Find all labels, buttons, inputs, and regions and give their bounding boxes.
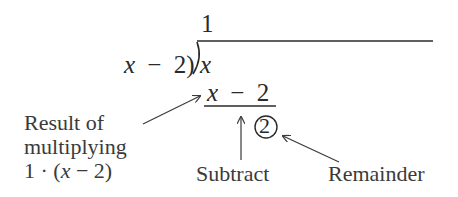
product: x − 2	[207, 80, 269, 105]
divisor: x − 2)	[124, 52, 195, 77]
result-label-suffix: − 2)	[70, 158, 112, 183]
divisor-number: 2)	[174, 51, 195, 78]
result-label-prefix: 1 · (	[24, 158, 61, 183]
result-label-variable: x	[61, 158, 71, 183]
subtract-label: Subtract	[196, 163, 269, 185]
product-variable: x	[207, 79, 218, 106]
dividend: x	[200, 52, 211, 77]
divisor-variable: x	[124, 51, 135, 78]
remainder-value: 2	[259, 115, 270, 137]
remainder-arrow	[283, 136, 339, 162]
remainder-label: Remainder	[328, 163, 425, 185]
product-number: 2	[257, 79, 270, 106]
divisor-operator: −	[147, 51, 161, 78]
result-label-line2: multiplying	[24, 136, 127, 158]
result-arrow	[143, 96, 200, 124]
result-label-line3: 1 · (x − 2)	[24, 160, 112, 182]
quotient: 1	[201, 11, 214, 36]
product-operator: −	[230, 79, 244, 106]
result-label-line1: Result of	[24, 112, 104, 134]
